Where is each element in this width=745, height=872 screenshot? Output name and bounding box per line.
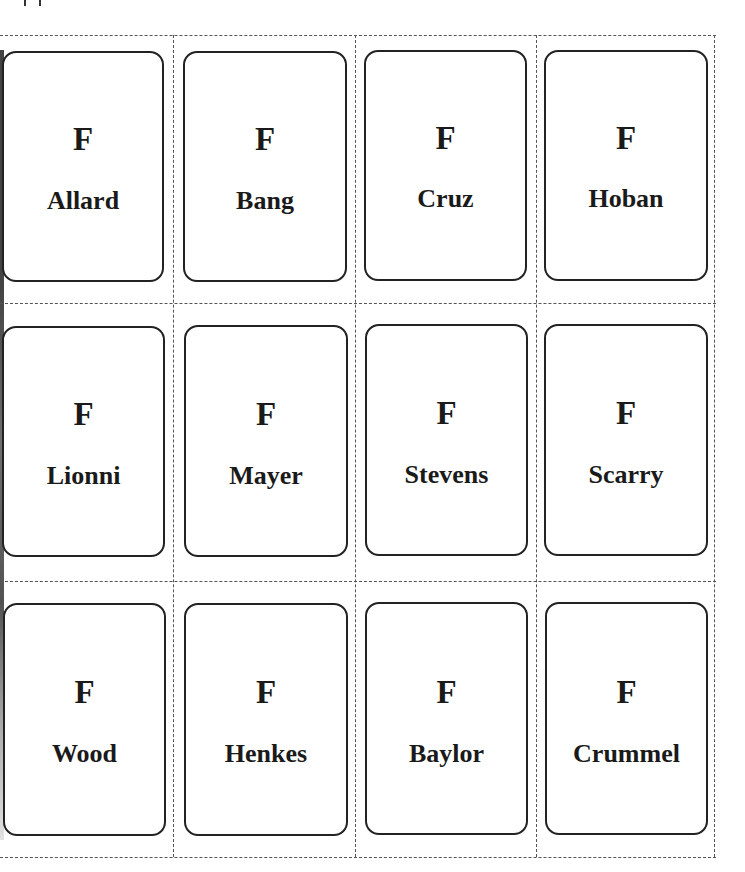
card-name: Wood [5,741,164,767]
card-letter: F [185,123,345,156]
card-mayer: F Mayer [184,325,348,557]
card-name: Stevens [367,462,526,488]
card-letter: F [5,676,164,709]
card-name: Baylor [367,741,526,767]
cut-line-horizontal [0,857,716,858]
cut-line-horizontal [0,303,716,304]
card-hoban: F Hoban [544,50,708,281]
cut-line-horizontal [0,35,716,36]
cut-line-vertical [173,35,174,857]
card-letter: F [367,397,526,430]
cut-line-vertical [355,35,356,857]
card-bang: F Bang [183,51,347,282]
card-scarry: F Scarry [544,324,708,556]
card-letter: F [4,123,162,156]
card-letter: F [546,397,706,430]
card-name: Scarry [546,462,706,488]
card-name: Cruz [366,186,525,212]
cutoff-text-fragment [22,0,62,7]
card-letter: F [547,676,706,709]
card-letter: F [367,676,526,709]
card-letter: F [186,398,346,431]
card-letter: F [4,398,163,431]
card-letter: F [366,122,525,155]
card-crummel: F Crummel [545,602,708,835]
cut-line-vertical [714,35,715,857]
card-name: Hoban [546,186,706,212]
card-name: Allard [4,188,162,214]
card-henkes: F Henkes [184,603,348,836]
cut-line-horizontal [0,581,716,582]
card-allard: F Allard [2,51,164,282]
card-cruz: F Cruz [364,50,527,281]
card-name: Bang [185,188,345,214]
card-name: Crummel [547,741,706,767]
cut-line-vertical [536,35,537,857]
card-name: Lionni [4,463,163,489]
card-name: Mayer [186,463,346,489]
card-name: Henkes [186,741,346,767]
card-baylor: F Baylor [365,602,528,835]
card-letter: F [186,676,346,709]
card-wood: F Wood [3,603,166,836]
card-letter: F [546,122,706,155]
card-stevens: F Stevens [365,324,528,556]
card-lionni: F Lionni [2,326,165,557]
